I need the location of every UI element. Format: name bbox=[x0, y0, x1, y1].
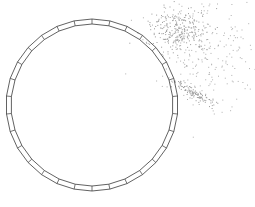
ring-segment-divider bbox=[18, 146, 22, 149]
ring-segment-divider bbox=[169, 130, 174, 132]
ring-segment-divider bbox=[125, 26, 127, 31]
ring-segment-divider bbox=[140, 35, 143, 39]
ring-segment-divider bbox=[162, 62, 166, 65]
ring-segment-divider bbox=[10, 130, 15, 132]
ring-segment-divider bbox=[74, 21, 75, 26]
segmented-ring bbox=[7, 19, 178, 191]
ring-segment-divider bbox=[140, 171, 143, 175]
ring-segment-divider bbox=[28, 48, 32, 51]
ring-scatter-diagram bbox=[0, 0, 255, 207]
ring-segment-divider bbox=[74, 184, 75, 189]
ring-segment-divider bbox=[173, 114, 178, 115]
point-cluster-lower-streak bbox=[171, 80, 218, 109]
ring-segment-divider bbox=[10, 78, 15, 80]
ring-segment-divider bbox=[7, 114, 12, 115]
ring-segment-divider bbox=[152, 159, 156, 162]
ring-segment-divider bbox=[125, 179, 127, 184]
scatter-points bbox=[125, 1, 255, 138]
ring-segment-divider bbox=[169, 78, 174, 80]
ring-segment-divider bbox=[42, 35, 45, 39]
ring-segment-divider bbox=[152, 48, 156, 51]
ring-segment-divider bbox=[109, 21, 110, 26]
ring-segment-divider bbox=[57, 26, 59, 31]
point-cluster-upper-right-diffuse bbox=[125, 2, 255, 138]
ring-segment-divider bbox=[18, 62, 22, 65]
ring-segment-divider bbox=[109, 184, 110, 189]
ring-segment-divider bbox=[162, 146, 166, 149]
ring-segment-divider bbox=[173, 96, 178, 97]
ring-segment-divider bbox=[28, 159, 32, 162]
ring-segment-divider bbox=[42, 171, 45, 175]
ring-segment-divider bbox=[7, 96, 12, 97]
point-cluster-upper-right-dense bbox=[129, 1, 218, 58]
ring-segment-divider bbox=[57, 179, 59, 184]
